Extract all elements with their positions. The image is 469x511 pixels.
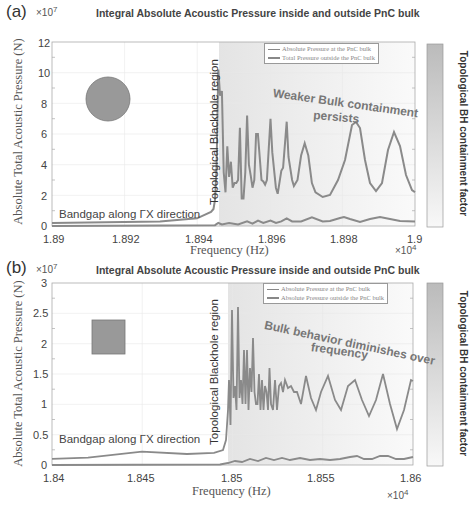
x-multiplier: ×104 [387, 488, 408, 501]
blackhole-region-label: Topological Blackhole region [208, 292, 220, 452]
legend-item: Absolute Pressure at the PnC bulk [267, 285, 384, 294]
x-tick: 1.845 [127, 472, 155, 484]
x-tick: 1.84 [43, 472, 64, 484]
legend-item: Absolute Pressure outside the PnC bulk [267, 294, 384, 303]
colorbar-label: Topological BH containment factor [458, 284, 469, 464]
y-tick: 1 [41, 398, 47, 410]
colorbar [427, 283, 443, 466]
unit-cell-square-icon [92, 320, 125, 354]
x-tick: 1.86 [400, 472, 421, 484]
y-tick: 2.5 [33, 307, 48, 319]
y-tick: 1.5 [33, 368, 48, 380]
x-tick: 1.855 [307, 472, 335, 484]
x-axis-label: Frequency (Hz) [192, 484, 271, 499]
y-tick: 2 [41, 338, 47, 350]
y-axis-label: Absolute Total Acoustic Pressure (N) [11, 264, 26, 484]
legend: Absolute Pressure at the PnC bulk Absolu… [263, 283, 388, 304]
x-tick: 1.85 [221, 472, 242, 484]
y-tick: 3 [41, 277, 47, 289]
y-tick: 0.5 [33, 429, 48, 441]
bandgap-label: Bandgap along ΓX direction [59, 433, 200, 445]
y-tick: 0 [41, 459, 47, 471]
